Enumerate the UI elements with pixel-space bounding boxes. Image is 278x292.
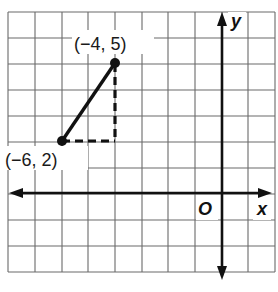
point-a [110,58,120,68]
y-axis-down-arrow-icon [217,266,227,280]
x-axis-right-arrow-icon [258,188,272,198]
x-axis-label: x [256,199,268,219]
x-axis-left-arrow-icon [9,188,23,198]
y-axis-label: y [230,11,242,31]
point-b-label: (−6, 2) [5,150,58,170]
y-axis-up-arrow-icon [217,12,227,26]
y-axis [217,12,227,280]
point-b [57,136,67,146]
point-a-label: (−4, 5) [74,34,127,54]
coordinate-plane: (−4, 5) (−6, 2) O x y [0,0,278,292]
origin-label: O [198,199,212,219]
x-axis [9,188,272,198]
